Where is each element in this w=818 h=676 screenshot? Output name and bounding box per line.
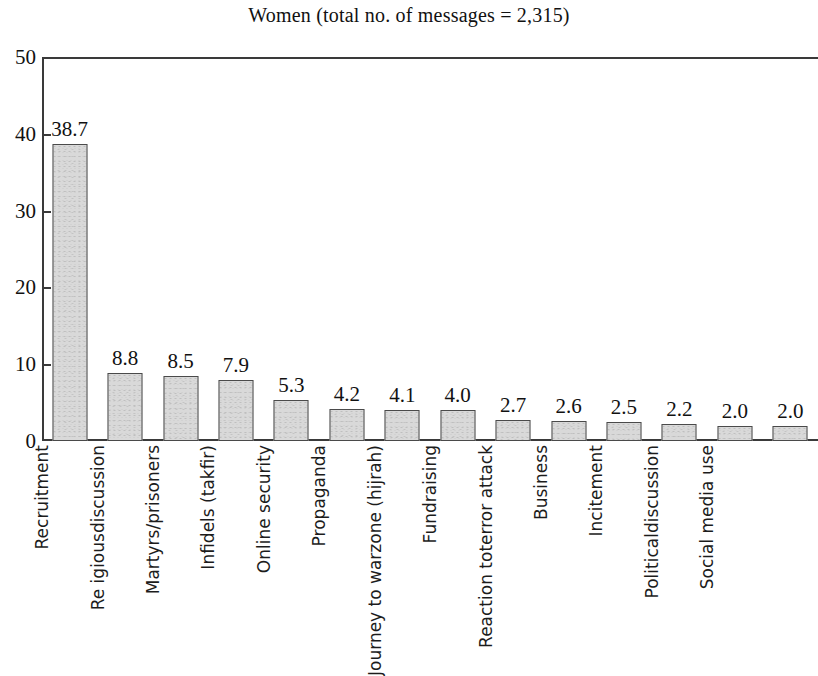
- category-label-line: Fundraising: [420, 445, 441, 543]
- x-axis-category-labels: Personal issuesRecruitmentRe igiousdiscu…: [42, 443, 818, 629]
- category-label-line: Political: [642, 533, 663, 598]
- bar-slot: 7.9: [208, 57, 263, 441]
- bar[interactable]: [218, 380, 253, 441]
- category-label-rotated: Social media use: [697, 445, 818, 631]
- bar[interactable]: [551, 421, 586, 441]
- bar-slot: 8.8: [97, 57, 152, 441]
- y-axis-tick-label: 40: [0, 123, 36, 144]
- bar-value-label: 4.2: [334, 384, 360, 405]
- bar[interactable]: [163, 376, 198, 441]
- category-label-line: discussion: [642, 445, 663, 533]
- bar-slot: 2.6: [541, 57, 596, 441]
- category-label-line: terror attack: [476, 445, 497, 552]
- bar-value-label: 4.1: [389, 385, 415, 406]
- bar[interactable]: [385, 410, 420, 441]
- bar[interactable]: [606, 422, 641, 441]
- category-label-line: Reaction to: [476, 552, 497, 648]
- bar-value-label: 5.3: [278, 375, 304, 396]
- bar-value-label: 2.0: [777, 401, 803, 422]
- bar-value-label: 8.8: [112, 348, 138, 369]
- category-label-line: discussion: [88, 445, 109, 533]
- bar-slot: 38.7: [42, 57, 97, 441]
- bar-value-label: 38.7: [51, 119, 88, 140]
- bar-slot: 2.0: [707, 57, 762, 441]
- category-label-line: Online security: [254, 445, 275, 573]
- bar[interactable]: [108, 373, 143, 441]
- bar[interactable]: [662, 424, 697, 441]
- bar-value-label: 2.6: [555, 396, 581, 417]
- bar-value-label: 2.5: [611, 397, 637, 418]
- category-label-line: Journey to war: [365, 553, 386, 676]
- category-label-line: Martyrs/prisoners: [143, 445, 164, 594]
- bar-value-label: 7.9: [223, 355, 249, 376]
- category-label-line: Infidels (takfir): [198, 445, 219, 570]
- bar-slot: 2.7: [485, 57, 540, 441]
- category-label-line: Re igious: [88, 533, 109, 610]
- bar-slot: 8.5: [153, 57, 208, 441]
- category-label-line: Propaganda: [309, 445, 330, 546]
- bar-slot: 4.2: [319, 57, 374, 441]
- chart-title: Women (total no. of messages = 2,315): [0, 4, 818, 27]
- y-axis-tick-label: 10: [0, 354, 36, 375]
- bar[interactable]: [52, 144, 87, 441]
- bar-slot: 5.3: [264, 57, 319, 441]
- bar[interactable]: [717, 426, 752, 441]
- bar[interactable]: [440, 410, 475, 441]
- bar[interactable]: [274, 400, 309, 441]
- bar-value-label: 2.0: [722, 401, 748, 422]
- category-label-line: Incitement: [586, 445, 607, 536]
- bar-slot: 2.0: [763, 57, 818, 441]
- bar-slot: 4.1: [375, 57, 430, 441]
- bar-value-label: 4.0: [445, 385, 471, 406]
- bar-slot: 2.2: [652, 57, 707, 441]
- bar-slot: 4.0: [430, 57, 485, 441]
- bar[interactable]: [773, 426, 808, 441]
- bar-value-label: 8.5: [167, 351, 193, 372]
- bar[interactable]: [496, 420, 531, 441]
- bar-value-label: 2.2: [666, 399, 692, 420]
- x-axis-category-label: Social media use: [763, 443, 818, 629]
- category-label-line: Recruitment: [32, 445, 53, 549]
- y-axis-tick-label: 30: [0, 200, 36, 221]
- y-axis-tick-label: 50: [0, 47, 36, 68]
- category-label-line: zone (hijrah): [365, 445, 386, 553]
- bar-slot: 2.5: [596, 57, 651, 441]
- bar-value-label: 2.7: [500, 395, 526, 416]
- bar[interactable]: [329, 409, 364, 441]
- category-label-line: Business: [531, 445, 552, 520]
- bars-layer: 38.78.88.57.95.34.24.14.02.72.62.52.22.0…: [42, 57, 818, 441]
- category-label-line: Social media use: [697, 445, 718, 589]
- y-axis-tick-label: 20: [0, 277, 36, 298]
- plot-area: 38.78.88.57.95.34.24.14.02.72.62.52.22.0…: [42, 57, 818, 441]
